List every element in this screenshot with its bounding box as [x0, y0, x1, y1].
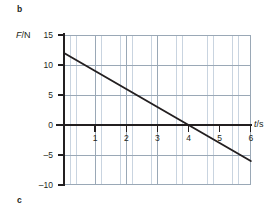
- y-tick: [58, 64, 64, 65]
- x-tick: [94, 126, 95, 132]
- part-label-c: c: [17, 196, 22, 205]
- x-axis-title: t/s: [254, 120, 264, 129]
- x-tick-label: 1: [88, 134, 102, 143]
- y-tick-label: –5: [19, 151, 53, 160]
- grid-border: [64, 35, 251, 185]
- y-tick-label: 10: [19, 61, 53, 70]
- x-tick: [250, 126, 251, 132]
- y-tick-label: –10: [19, 181, 53, 190]
- x-tick-label: 5: [213, 134, 227, 143]
- x-tick-label: 2: [119, 134, 133, 143]
- part-label-b: b: [17, 5, 22, 14]
- y-tick: [58, 184, 64, 185]
- x-tick: [157, 126, 158, 132]
- y-tick: [58, 154, 64, 155]
- x-tick-label: 6: [244, 134, 258, 143]
- y-tick-label: 0: [19, 121, 53, 130]
- x-axis-unit: /s: [257, 119, 264, 129]
- x-tick-label: 4: [182, 134, 196, 143]
- y-tick: [58, 124, 64, 125]
- y-axis-line: [63, 33, 65, 186]
- x-tick: [126, 126, 127, 132]
- y-tick-label: 15: [19, 31, 53, 40]
- x-tick-label: 3: [150, 134, 164, 143]
- x-tick: [188, 126, 189, 132]
- y-tick-label: 5: [19, 91, 53, 100]
- plot-area: [64, 35, 251, 185]
- x-tick: [219, 126, 220, 132]
- x-axis-line: [56, 124, 252, 126]
- y-tick: [58, 34, 64, 35]
- y-tick: [58, 94, 64, 95]
